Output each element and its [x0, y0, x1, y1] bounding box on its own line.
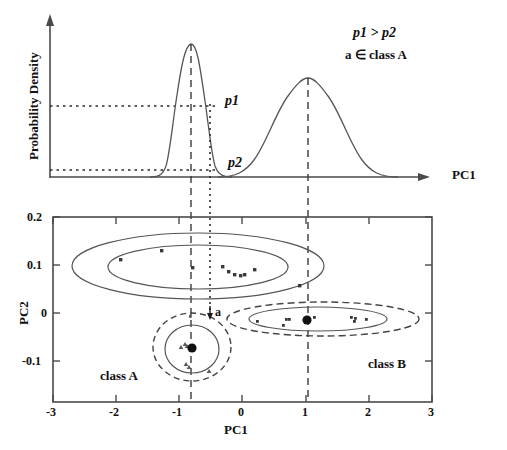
class-b-points: [256, 316, 368, 327]
scatter-xlabel: PC1: [224, 422, 248, 438]
class-b-label: class B: [368, 356, 406, 372]
probability-level-lines: [50, 106, 215, 170]
density-ylabel: Probability Density: [26, 52, 42, 160]
class-a-label: class A: [100, 368, 138, 384]
class-a-centroid: [187, 343, 196, 352]
class-a-points: [179, 315, 212, 373]
xtick-1: -2: [109, 405, 119, 420]
p2-label: p2: [228, 155, 242, 171]
scatter-ylabel: PC2: [16, 301, 32, 325]
ytick-0: 0.2: [27, 210, 42, 225]
xtick-5: 2: [365, 405, 371, 420]
class-b-centroid: [302, 315, 311, 324]
xtick-2: -1: [172, 405, 182, 420]
unknown-sample-label: a: [215, 305, 221, 320]
ytick-2: 0: [41, 306, 47, 321]
upper-cluster-ellipses: [72, 233, 324, 299]
guide-lines: [191, 44, 308, 402]
figure-canvas: [0, 0, 507, 450]
annotation-membership: a ∈ class A: [345, 47, 407, 63]
p1-label: p1: [225, 93, 239, 109]
xtick-6: 3: [428, 405, 434, 420]
ytick-1: 0.1: [27, 258, 42, 273]
class-b-ellipses: [227, 302, 419, 336]
annotation-inequality: p1 > p2: [353, 25, 396, 41]
xtick-3: 0: [238, 405, 244, 420]
ytick-3: -0.1: [22, 354, 41, 369]
density-xlabel: PC1: [452, 167, 476, 183]
figure-root: Probability Density PC1 p1 p2 p1 > p2 a …: [0, 0, 507, 450]
xtick-0: -3: [46, 405, 56, 420]
xtick-4: 1: [302, 405, 308, 420]
